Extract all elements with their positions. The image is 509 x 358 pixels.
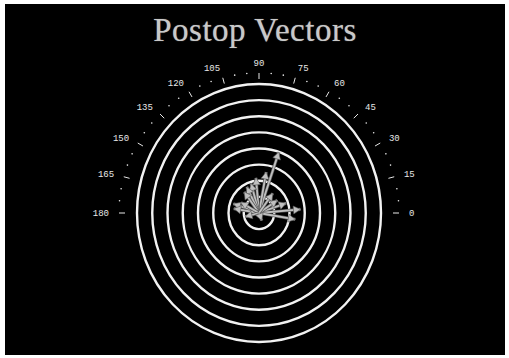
angle-label: 150 [113,134,129,144]
vector-arrowhead [278,202,286,210]
angle-label: 120 [168,79,184,89]
vector-arrowhead [261,172,269,180]
angle-label: 45 [365,103,376,113]
angle-label: 15 [404,170,415,180]
angle-label: 135 [137,103,153,113]
angle-label: 60 [334,79,345,89]
angle-label: 75 [298,64,309,74]
angle-label: 180 [93,209,109,219]
angle-label: 0 [409,209,414,219]
angle-label: 165 [98,170,114,180]
vector-arrowhead [293,206,300,214]
angle-label: 105 [204,64,220,74]
vector-arrowhead [288,214,296,222]
angle-label: 90 [254,59,265,69]
vector-arrowhead [234,206,242,214]
polar-plot: 0153045607590105120135150165180 [0,0,509,358]
angle-label: 30 [389,134,400,144]
angle-ticks [119,73,400,213]
vector-arrowhead [273,152,281,160]
vector-arrows [233,152,300,222]
